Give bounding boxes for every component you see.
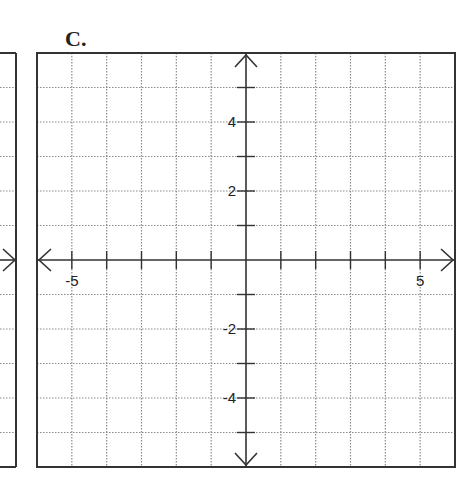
coordinate-plane-figure: C. -5542-2-4: [0, 0, 465, 501]
coordinate-grid: -5542-2-4: [37, 53, 455, 467]
y-tick-label: -4: [223, 389, 236, 406]
x-tick-label: 5: [416, 272, 424, 289]
left-partial-panel: [0, 53, 16, 467]
y-tick-label: -2: [223, 320, 236, 337]
x-tick-label: -5: [65, 272, 78, 289]
y-tick-label: 2: [228, 182, 236, 199]
y-tick-label: 4: [228, 113, 236, 130]
panel-label: C.: [65, 26, 86, 51]
